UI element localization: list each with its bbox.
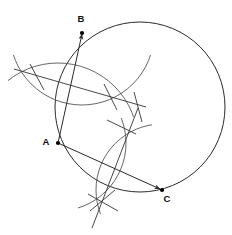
perpendicular-bisector-ab <box>14 69 146 107</box>
bisector-ac-tick-top <box>107 120 136 134</box>
geometry-canvas: A B C <box>0 0 232 235</box>
construction-arcs-ab <box>0 0 154 223</box>
point-c-label: C <box>164 193 171 204</box>
chord-ac <box>58 143 160 189</box>
perpendicular-bisector-ac <box>92 108 138 228</box>
point-b-dot <box>80 31 84 35</box>
point-c-dot <box>160 188 164 192</box>
point-a-dot <box>56 141 60 145</box>
point-a-label: A <box>43 136 50 147</box>
chord-ab <box>58 34 82 143</box>
geometry-figure: A B C <box>0 0 232 235</box>
construction-arcs-ac <box>0 75 228 235</box>
point-b-label: B <box>78 13 85 24</box>
arc-from-a-for-ab <box>0 63 138 223</box>
circumcircle <box>55 22 225 192</box>
bisector-ab-tick-far-right <box>134 92 142 122</box>
